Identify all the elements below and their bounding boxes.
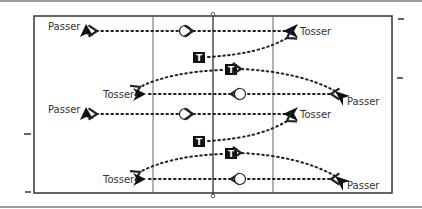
target-label: T xyxy=(196,137,203,147)
tosser-arrow-icon xyxy=(283,107,298,121)
passer-label: Passer xyxy=(347,96,380,107)
tosser-arrow-icon xyxy=(283,24,298,38)
drill-diagram: Passer Tosser T T Tosser Passer Passer xyxy=(0,0,422,209)
curve-path xyxy=(140,154,222,172)
passer-label: Passer xyxy=(347,180,380,191)
passer-arrow-icon xyxy=(80,24,93,37)
target-label: T xyxy=(228,149,235,159)
passer-label: Passer xyxy=(48,21,81,32)
bottom-frame-line xyxy=(0,206,422,208)
ball-icon xyxy=(180,26,191,37)
target-label: T xyxy=(228,65,235,75)
ball-icon xyxy=(180,109,191,120)
drill-group-lower: Passer Tosser T T Tosser Passer xyxy=(48,104,380,191)
curve-path xyxy=(140,70,222,87)
net-post-bottom xyxy=(211,194,215,198)
tosser-arrow-icon xyxy=(133,88,146,101)
net-post-top xyxy=(211,12,215,16)
curve-path xyxy=(241,153,335,176)
ball-icon xyxy=(235,174,246,185)
top-frame-line xyxy=(0,0,422,2)
curve-path xyxy=(241,69,335,91)
passer-label: Passer xyxy=(48,104,81,115)
curve-path xyxy=(208,121,287,141)
ball-icon xyxy=(235,89,246,100)
passer-arrow-icon xyxy=(80,107,93,120)
target-label: T xyxy=(196,53,203,63)
curve-path xyxy=(208,38,287,57)
tosser-arrow-icon xyxy=(133,173,146,186)
tosser-label: Tosser xyxy=(299,109,332,120)
tosser-label: Tosser xyxy=(102,89,135,100)
tosser-label: Tosser xyxy=(299,26,332,37)
tosser-label: Tosser xyxy=(102,174,135,185)
drill-group-upper: Passer Tosser T T Tosser Passer xyxy=(48,21,380,107)
